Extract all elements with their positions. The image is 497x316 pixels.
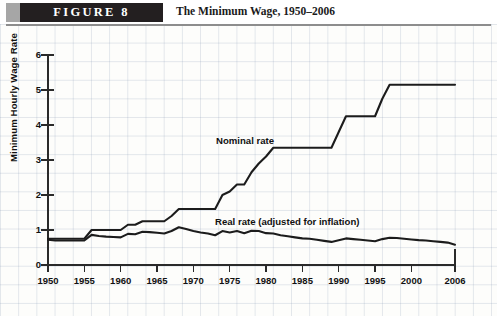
figure-container: FIGURE 8 The Minimum Wage, 1950–2006 Min… bbox=[0, 0, 497, 316]
annotation-nominal-rate: Nominal rate bbox=[216, 135, 274, 146]
annotation-real-rate: Real rate (adjusted for inflation) bbox=[215, 216, 359, 227]
chart-plot-lines bbox=[0, 0, 497, 316]
